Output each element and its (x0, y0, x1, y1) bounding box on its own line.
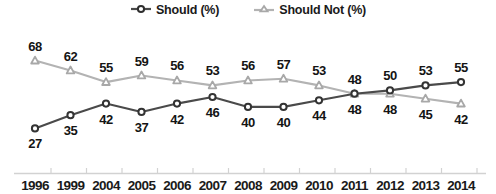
x-axis-tick-label: 2007 (199, 178, 227, 193)
dark-circle-line-key-icon (130, 1, 152, 19)
data-label: 46 (206, 105, 220, 120)
x-axis-tick-label: 1999 (57, 178, 85, 193)
data-label: 68 (28, 38, 42, 53)
data-point-marker (103, 101, 109, 107)
data-point-marker (316, 97, 322, 103)
data-label: 50 (383, 68, 397, 83)
data-point-marker (32, 125, 38, 131)
x-axis-tick-label: 2014 (447, 178, 475, 193)
x-axis: 1996199920042005200620072008200920102011… (0, 166, 496, 194)
x-axis-tick-label: 2005 (128, 178, 156, 193)
data-point-marker (422, 95, 430, 102)
data-label: 37 (135, 119, 149, 134)
data-point-marker (280, 75, 288, 82)
data-label: 42 (454, 111, 468, 126)
data-label: 57 (277, 56, 291, 71)
data-point-marker (315, 81, 323, 88)
data-point-marker (422, 82, 428, 88)
data-label: 44 (312, 108, 326, 123)
legend-item-should-not[interactable]: Should Not (%) (253, 1, 366, 19)
data-point-marker (280, 104, 286, 110)
x-axis-tick-label: 2011 (341, 178, 368, 193)
data-label: 40 (277, 114, 291, 129)
data-label: 55 (99, 60, 113, 75)
data-label: 62 (64, 48, 78, 63)
data-point-marker (209, 81, 217, 88)
data-label: 27 (28, 136, 42, 151)
data-point-marker (67, 112, 73, 118)
legend-label-should: Should (%) (156, 3, 219, 17)
data-label: 48 (383, 101, 397, 116)
data-label: 56 (170, 58, 184, 73)
data-label: 40 (241, 114, 255, 129)
data-label: 55 (454, 60, 468, 75)
data-point-marker (102, 78, 110, 85)
data-point-marker (351, 91, 357, 97)
x-axis-tick-label: 2009 (270, 178, 298, 193)
plot-area: 2735423742464040444850535568625559565356… (0, 18, 496, 166)
data-label: 56 (241, 58, 255, 73)
data-point-marker (457, 100, 465, 107)
data-label: 53 (312, 63, 326, 78)
line-chart: Should (%) Should Not (%) 27354237424640… (0, 0, 496, 194)
data-point-marker (138, 72, 146, 79)
x-axis-tick-label: 2010 (305, 178, 333, 193)
data-label: 42 (99, 111, 113, 126)
x-axis-tick-label: 2004 (92, 178, 120, 193)
x-axis-tick-label: 2008 (234, 178, 262, 193)
data-point-marker (138, 109, 144, 115)
data-point-marker (31, 57, 39, 64)
chart-legend: Should (%) Should Not (%) (0, 1, 496, 19)
data-point-marker (244, 76, 252, 83)
data-point-marker (174, 101, 180, 107)
data-label: 59 (135, 53, 149, 68)
data-point-marker (245, 104, 251, 110)
light-triangle-line-key-icon (253, 1, 275, 19)
data-label: 48 (348, 101, 362, 116)
data-label: 45 (419, 106, 433, 121)
x-axis-tick-label: 2006 (163, 178, 191, 193)
x-axis-tick-label: 2013 (412, 178, 440, 193)
data-point-marker (458, 79, 464, 85)
data-point-marker (67, 67, 75, 74)
data-point-marker (173, 76, 181, 83)
data-label: 35 (64, 123, 78, 138)
data-point-marker (387, 87, 393, 93)
data-label: 53 (419, 63, 433, 78)
data-label: 48 (348, 71, 362, 86)
data-label: 53 (206, 63, 220, 78)
data-point-marker (209, 94, 215, 100)
series-canvas (0, 18, 496, 166)
legend-item-should[interactable]: Should (%) (130, 1, 219, 19)
x-axis-tick-label: 2012 (376, 178, 404, 193)
data-label: 42 (170, 111, 184, 126)
x-axis-tick-label: 1996 (21, 178, 49, 193)
legend-label-should-not: Should Not (%) (279, 3, 366, 17)
